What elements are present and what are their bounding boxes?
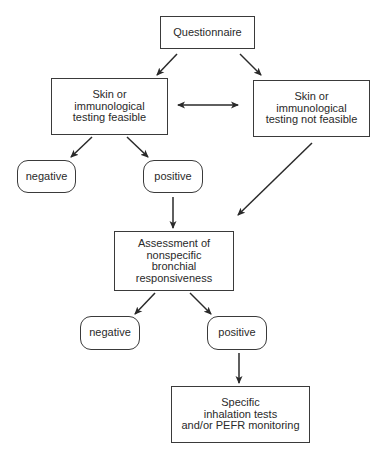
node-testing-feasible: Skin or immunological testing feasible <box>51 78 168 135</box>
node-label: testing not feasible <box>266 114 358 126</box>
node-negative-2: negative <box>80 316 140 350</box>
node-positive-1: positive <box>143 160 203 193</box>
node-label: negative <box>89 327 131 339</box>
arrow-questionnaire-to-feasible <box>157 54 177 75</box>
node-questionnaire: Questionnaire <box>160 16 255 49</box>
arrow-assessment-to-negative <box>135 293 155 314</box>
arrow-questionnaire-to-not-feasible <box>240 54 261 75</box>
node-label: positive <box>218 327 255 339</box>
node-label: responsiveness <box>136 273 212 285</box>
node-positive-2: positive <box>207 316 267 350</box>
arrow-not-feasible-to-assessment <box>238 143 312 215</box>
node-label: and/or PEFR monitoring <box>182 420 300 432</box>
arrow-feasible-to-positive <box>127 137 148 157</box>
arrow-feasible-to-negative <box>71 137 92 157</box>
node-specific-tests: Specific inhalation tests and/or PEFR mo… <box>171 386 310 443</box>
node-label: Questionnaire <box>173 27 242 39</box>
node-label: negative <box>26 171 68 183</box>
node-label: positive <box>154 171 191 183</box>
node-label: testing feasible <box>73 112 146 124</box>
node-label: Assessment of <box>138 238 210 250</box>
node-testing-not-feasible: Skin or immunological testing not feasib… <box>253 80 370 137</box>
node-label: bronchial <box>152 261 197 273</box>
arrow-assessment-to-positive <box>190 293 211 314</box>
node-negative-1: negative <box>17 160 76 193</box>
node-assessment: Assessment of nonspecific bronchial resp… <box>114 231 234 291</box>
